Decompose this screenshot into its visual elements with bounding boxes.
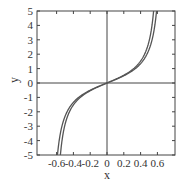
x-tick-label: -0.6 [48,157,66,169]
y-tick-label: 3 [28,34,34,46]
y-tick-label: 2 [28,48,34,60]
x-tick-label: 0.4 [134,157,148,169]
y-axis-label: y [7,77,21,83]
y-tick-label: -1 [24,91,33,103]
x-axis-label: x [104,168,110,182]
y-tick-label: -2 [24,106,33,118]
x-tick-label: -0.4 [65,157,83,169]
y-tick-label: 0 [28,77,34,89]
y-tick-label: 4 [28,19,34,31]
y-tick-label: 5 [28,5,34,17]
y-tick-label: -4 [24,135,34,147]
y-tick-label: 1 [28,63,34,75]
x-tick-label: -0.2 [81,157,98,169]
chart: -5-4-3-2-1012345-0.6-0.4-0.200.20.40.6 x… [0,0,185,183]
x-tick-label: 0.2 [117,157,131,169]
y-tick-label: -3 [24,120,34,132]
x-tick-label: 0.6 [151,157,165,169]
y-tick-label: -5 [24,149,34,161]
axis-ticks: -5-4-3-2-1012345-0.6-0.4-0.200.20.40.6 [24,5,175,169]
